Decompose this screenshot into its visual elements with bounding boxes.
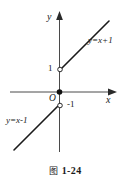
y-axis-arrow-icon [56, 11, 63, 20]
equation-label-upper-branch: y=x+1 [88, 36, 113, 45]
figure-caption: 图 1-24 [0, 166, 131, 176]
graph-svg [0, 0, 131, 160]
origin-dot-marker [57, 89, 63, 95]
open-circle-marker-lower [58, 103, 63, 108]
figure-container: y x O 1 -1 y=x+1 y=x-1 图 1-24 [0, 0, 131, 193]
x-axis-label: x [106, 95, 110, 105]
y-axis-label: y [47, 12, 51, 22]
equation-label-lower-branch: y=x-1 [6, 116, 28, 125]
tick-label-y-negative-one: -1 [67, 100, 75, 109]
open-circle-marker-upper [58, 67, 63, 72]
y-axis [56, 11, 63, 152]
figure-caption-prefix: 图 [49, 166, 58, 176]
lower-branch-line [14, 106, 58, 150]
figure-caption-number: 1-24 [62, 165, 82, 176]
x-axis [10, 89, 117, 96]
coordinate-plot: y x O 1 -1 y=x+1 y=x-1 [0, 0, 131, 160]
tick-label-y-one: 1 [48, 64, 53, 73]
upper-branch-line [61, 21, 109, 69]
origin-label: O [49, 94, 56, 104]
